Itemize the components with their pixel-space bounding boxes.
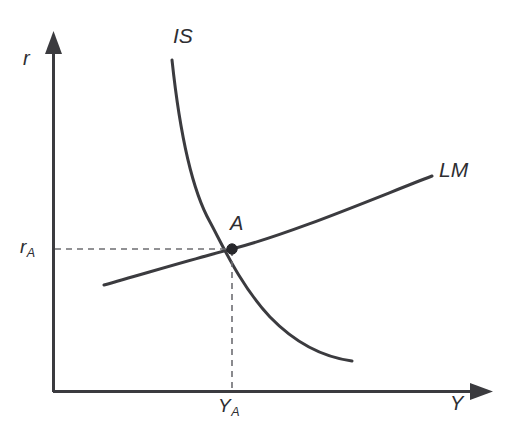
is-lm-chart-canvas [0, 0, 513, 441]
equilibrium-point-marker [227, 244, 237, 254]
equilibrium-point-label: A [230, 213, 243, 233]
equilibrium-rate-symbol: r [20, 236, 26, 257]
equilibrium-output-label: YA [218, 396, 239, 415]
is-lm-figure: IS LM r Y rA YA A [0, 0, 513, 441]
x-axis-arrowhead-icon [470, 383, 493, 400]
lm-curve [104, 176, 432, 285]
equilibrium-rate-label: rA [20, 237, 35, 256]
equilibrium-output-symbol: Y [218, 395, 231, 416]
lm-curve-label: LM [439, 159, 468, 180]
y-axis-label: r [23, 48, 30, 68]
equilibrium-rate-subscript: A [27, 246, 35, 260]
x-axis-label: Y [450, 393, 463, 413]
y-axis-arrowhead-icon [45, 31, 62, 54]
is-curve-label: IS [173, 25, 193, 46]
is-curve [172, 60, 352, 361]
equilibrium-output-subscript: A [231, 405, 239, 419]
